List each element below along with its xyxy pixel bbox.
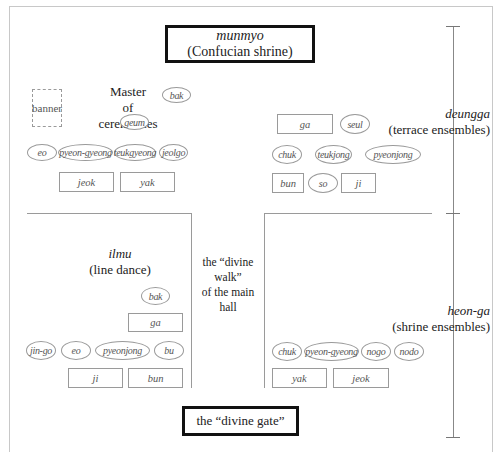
rect-yak-shrine: yak	[272, 368, 327, 388]
oval-geum: geum	[120, 114, 149, 130]
oval-bak-terrace: bak	[162, 87, 191, 103]
oval-chuk-shrine: chuk	[272, 342, 302, 361]
oval-bu: bu	[154, 341, 184, 360]
oval-pyeon-gyeong-shrine: pyeon-gyeong	[304, 342, 359, 361]
oval-eo-shrine: eo	[61, 341, 91, 360]
right-court-top	[264, 213, 432, 214]
rect-ga-terrace: ga	[277, 114, 333, 134]
divine-gate-label: the “divine gate”	[196, 413, 284, 429]
scale-tick-bottom	[446, 437, 460, 438]
oval-pyeonjong-shrine: pyeonjong	[95, 341, 150, 360]
oval-nogo: nogo	[361, 342, 391, 361]
oval-nodo: nodo	[394, 342, 424, 361]
oval-jin-go: jin-go	[26, 341, 56, 360]
divine-walk-line1: the “divine walk”	[203, 256, 254, 283]
ilmu-title: ilmu	[108, 246, 131, 261]
divine-walk-line2: of the main hall	[202, 286, 254, 313]
oval-bak-shrine: bak	[141, 287, 170, 305]
rect-ji-shrine: ji	[68, 368, 123, 388]
oval-pyeonjong-terrace: pyeonjong	[365, 145, 421, 164]
deungga-subtitle: (terrace ensembles)	[389, 122, 490, 137]
oval-seul: seul	[340, 114, 370, 134]
right-court-left	[264, 213, 265, 388]
ilmu-label: ilmu (line dance)	[80, 246, 160, 278]
scale-tick-mid	[446, 213, 460, 214]
oval-jeolgo: jeolgo	[159, 144, 188, 161]
rect-bun-terrace: bun	[272, 173, 304, 193]
rect-bun-shrine: bun	[128, 368, 183, 388]
divine-gate-box: the “divine gate”	[182, 406, 299, 436]
deungga-label: deungga (terrace ensembles)	[370, 106, 490, 138]
master-line1: Master	[110, 84, 146, 99]
rect-yak-terrace: yak	[120, 172, 175, 192]
oval-teukjong: teukjong	[315, 145, 352, 164]
oval-so: so	[308, 173, 338, 193]
munmyo-subtitle: (Confucian shrine)	[187, 44, 292, 60]
rect-ji-terrace: ji	[341, 173, 376, 193]
oval-eo-terrace: eo	[27, 144, 57, 161]
heonga-label: heon-ga (shrine ensembles)	[370, 303, 490, 335]
munmyo-box: munmyo (Confucian shrine)	[165, 25, 315, 63]
oval-chuk-terrace: chuk	[272, 145, 302, 164]
scale-tick-top	[446, 26, 460, 27]
rect-ga-shrine: ga	[128, 313, 183, 332]
deungga-title: deungga	[445, 106, 490, 121]
heonga-title: heon-ga	[447, 303, 490, 318]
rect-jeok-terrace: jeok	[59, 172, 114, 192]
divine-walk-label: the “divine walk” of the main hall	[192, 255, 264, 315]
oval-pyeon-gyeong-terrace: pyeon-gyeong	[58, 144, 113, 161]
oval-teukgyeong: teukgyeong	[114, 144, 156, 161]
banner: banner	[32, 89, 62, 127]
ilmu-subtitle: (line dance)	[89, 262, 151, 277]
scale-line	[453, 26, 454, 438]
left-court-top	[27, 213, 192, 214]
rect-jeok-shrine: jeok	[333, 368, 389, 388]
heonga-subtitle: (shrine ensembles)	[392, 319, 490, 334]
munmyo-title: munmyo	[216, 28, 263, 44]
